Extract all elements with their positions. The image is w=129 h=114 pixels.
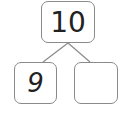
part-box-left: 9 [14,62,57,104]
part-box-right[interactable] [74,62,118,104]
whole-box: 10 [41,1,95,43]
whole-value: 10 [50,6,86,39]
part-value-left: 9 [27,68,44,98]
